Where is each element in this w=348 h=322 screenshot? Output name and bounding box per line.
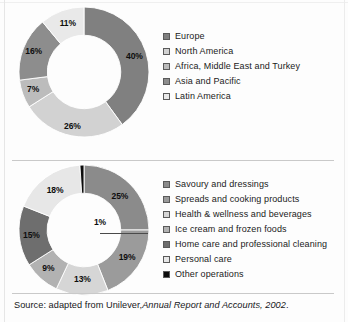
legend-item-label: Europe [175, 31, 205, 42]
chart-panel-region: EuropeNorth AmericaAfrica, Middle East a… [0, 0, 348, 158]
slice-percent-label: 7% [27, 84, 39, 94]
donut-chart-region [18, 6, 150, 138]
legend-item-label: North America [175, 46, 233, 57]
source-divider [12, 293, 334, 294]
legend-item[interactable]: Europe [163, 29, 300, 44]
legend-swatch-icon [163, 256, 170, 263]
label-leader-line [100, 233, 148, 234]
source-note: Source: adapted from Unilever,Annual Rep… [14, 300, 289, 310]
slice-percent-label: 13% [74, 274, 91, 284]
chart-panel-category: Savoury and dressingsSpreads and cooking… [0, 160, 348, 290]
legend-item[interactable]: Home care and professional cleaning [163, 237, 327, 252]
legend-item-label: Health & wellness and beverages [175, 209, 312, 220]
legend-swatch-icon [163, 181, 170, 188]
legend-swatch-icon [163, 78, 170, 85]
legend-swatch-icon [163, 271, 170, 278]
legend-item-label: Africa, Middle East and Turkey [175, 61, 300, 72]
legend-item[interactable]: Other operations [163, 267, 327, 282]
legend-item-label: Latin America [175, 91, 231, 102]
legend-item[interactable]: Spreads and cooking products [163, 192, 327, 207]
slice-percent-label: 40% [126, 51, 143, 61]
slice-percent-label: 15% [23, 230, 40, 240]
legend-item[interactable]: North America [163, 44, 300, 59]
slice-percent-label: 26% [64, 121, 81, 131]
slice-percent-label: 18% [47, 185, 64, 195]
legend-swatch-icon [163, 241, 170, 248]
slice-percent-label: 16% [25, 46, 42, 56]
source-suffix: . [286, 300, 289, 310]
legend-item[interactable]: Ice cream and frozen foods [163, 222, 327, 237]
legend-item-label: Spreads and cooking products [175, 194, 299, 205]
source-prefix: Source: adapted from Unilever, [14, 300, 142, 310]
legend-swatch-icon [163, 196, 170, 203]
legend-item-label: Ice cream and frozen foods [175, 224, 287, 235]
donut-svg [18, 6, 150, 138]
legend-swatch-icon [163, 211, 170, 218]
legend-item[interactable]: Latin America [163, 89, 300, 104]
legend-swatch-icon [163, 226, 170, 233]
legend-category: Savoury and dressingsSpreads and cooking… [163, 177, 327, 282]
legend-item-label: Savoury and dressings [175, 179, 269, 190]
legend-item[interactable]: Savoury and dressings [163, 177, 327, 192]
legend-item[interactable]: Personal care [163, 252, 327, 267]
legend-item[interactable]: Africa, Middle East and Turkey [163, 59, 300, 74]
donut-slice[interactable] [84, 7, 149, 125]
slice-percent-label: 1% [94, 217, 106, 227]
source-citation: Annual Report and Accounts, 2002 [142, 300, 286, 310]
slice-percent-label: 9% [42, 263, 54, 273]
legend-item-label: Other operations [175, 269, 244, 280]
legend-item-label: Asia and Pacific [175, 76, 241, 87]
legend-item[interactable]: Health & wellness and beverages [163, 207, 327, 222]
legend-swatch-icon [163, 93, 170, 100]
figure-container: EuropeNorth AmericaAfrica, Middle East a… [0, 0, 348, 322]
slice-percent-label: 25% [112, 191, 129, 201]
legend-item-label: Home care and professional cleaning [175, 239, 327, 250]
legend-item-label: Personal care [175, 254, 232, 265]
slice-percent-label: 11% [60, 18, 76, 28]
legend-swatch-icon [163, 33, 170, 40]
legend-region: EuropeNorth AmericaAfrica, Middle East a… [163, 29, 300, 104]
legend-swatch-icon [163, 48, 170, 55]
legend-item[interactable]: Asia and Pacific [163, 74, 300, 89]
legend-swatch-icon [163, 63, 170, 70]
slice-percent-label: 19% [119, 252, 136, 262]
